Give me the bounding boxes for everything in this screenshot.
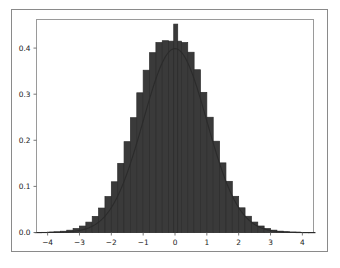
y-tick-label: 0.0 — [19, 228, 31, 237]
histogram-bar — [150, 53, 156, 233]
histogram-bar — [137, 93, 143, 233]
histogram-bar — [99, 208, 105, 232]
histogram-bar — [124, 142, 130, 233]
center-spike-bar — [174, 24, 178, 232]
y-tick-label: 0.2 — [19, 136, 31, 145]
histogram-bar — [181, 43, 187, 233]
histogram-bar — [130, 118, 136, 233]
x-axis-ticks: −4−3−2−101234 — [42, 233, 305, 247]
y-axis-ticks: 0.00.10.20.30.4 — [19, 44, 37, 237]
x-tick-label: −1 — [138, 238, 149, 247]
histogram-plot: −4−3−2−101234 0.00.10.20.30.4 — [0, 0, 340, 268]
histogram-bar — [143, 70, 149, 232]
y-tick-label: 0.1 — [19, 182, 31, 191]
x-tick-label: 2 — [236, 238, 241, 247]
histogram-bar — [118, 163, 124, 232]
x-tick-label: 0 — [173, 238, 178, 247]
x-tick-label: 4 — [300, 238, 305, 247]
x-tick-label: −2 — [106, 238, 117, 247]
chart-figure: −4−3−2−101234 0.00.10.20.30.4 — [0, 0, 340, 268]
y-tick-label: 0.4 — [19, 44, 31, 53]
x-tick-label: −4 — [42, 238, 53, 247]
histogram-bar — [200, 92, 206, 232]
spike-bar — [174, 24, 178, 232]
histogram-bar — [207, 117, 213, 232]
x-tick-label: 1 — [204, 238, 209, 247]
x-tick-label: 3 — [268, 238, 273, 247]
histogram-bar — [188, 52, 194, 232]
histogram-bar — [162, 41, 168, 233]
x-tick-label: −3 — [74, 238, 85, 247]
y-tick-label: 0.3 — [19, 90, 31, 99]
histogram-bar — [111, 182, 117, 233]
histogram-bar — [251, 222, 257, 232]
